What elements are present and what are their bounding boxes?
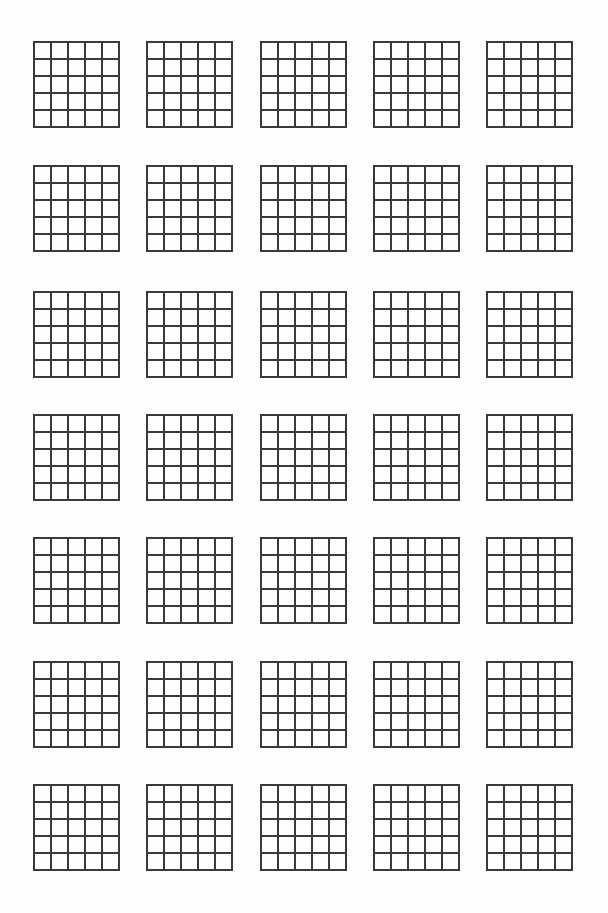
grid-lines: [261, 662, 346, 747]
grid-lines: [374, 538, 459, 623]
grid-lines: [487, 292, 572, 377]
grid-lines: [261, 166, 346, 251]
grid-lines: [374, 42, 459, 127]
grid-box: [261, 538, 346, 623]
grid-lines: [34, 292, 119, 377]
grid-box: [487, 292, 572, 377]
grid-lines: [487, 538, 572, 623]
grid-lines: [34, 785, 119, 870]
grid-lines: [487, 662, 572, 747]
grid-lines: [147, 538, 232, 623]
grid-box: [147, 538, 232, 623]
grid-lines: [487, 415, 572, 500]
grid-lines: [34, 538, 119, 623]
grid-box: [487, 785, 572, 870]
grid-lines: [147, 785, 232, 870]
grid-box: [374, 42, 459, 127]
grid-box: [374, 662, 459, 747]
grid-box: [487, 662, 572, 747]
grid-box: [34, 415, 119, 500]
grid-lines: [261, 415, 346, 500]
grid-lines: [374, 415, 459, 500]
grid-lines: [147, 166, 232, 251]
grid-lines: [374, 166, 459, 251]
grid-box: [34, 785, 119, 870]
grid-box: [147, 292, 232, 377]
grid-lines: [147, 42, 232, 127]
grid-lines: [374, 662, 459, 747]
grid-box: [261, 292, 346, 377]
grid-box: [261, 415, 346, 500]
worksheet-page: [0, 0, 608, 913]
grid-box: [487, 538, 572, 623]
grid-box: [261, 785, 346, 870]
grid-box: [261, 42, 346, 127]
grid-box: [34, 166, 119, 251]
grid-lines: [261, 538, 346, 623]
grid-lines: [261, 42, 346, 127]
grid-box: [487, 166, 572, 251]
grid-box: [147, 662, 232, 747]
grid-lines: [34, 166, 119, 251]
grid-lines: [374, 785, 459, 870]
grid-box: [147, 415, 232, 500]
grid-lines: [374, 292, 459, 377]
grid-box: [34, 538, 119, 623]
grid-box: [261, 662, 346, 747]
grid-lines: [487, 42, 572, 127]
grid-lines: [261, 785, 346, 870]
grid-box: [374, 785, 459, 870]
grid-box: [374, 415, 459, 500]
grid-box: [147, 166, 232, 251]
grid-box: [34, 42, 119, 127]
grid-lines: [34, 42, 119, 127]
grid-lines: [34, 415, 119, 500]
grid-box: [487, 42, 572, 127]
grid-box: [374, 538, 459, 623]
grid-box: [34, 292, 119, 377]
grid-box: [374, 166, 459, 251]
grid-box: [261, 166, 346, 251]
grid-box: [374, 292, 459, 377]
grid-box: [487, 415, 572, 500]
grid-lines: [487, 166, 572, 251]
grid-lines: [147, 415, 232, 500]
grid-box: [34, 662, 119, 747]
grid-lines: [261, 292, 346, 377]
grid-lines: [487, 785, 572, 870]
grid-box: [147, 785, 232, 870]
grid-lines: [147, 662, 232, 747]
grid-lines: [147, 292, 232, 377]
grid-lines: [34, 662, 119, 747]
grid-box: [147, 42, 232, 127]
